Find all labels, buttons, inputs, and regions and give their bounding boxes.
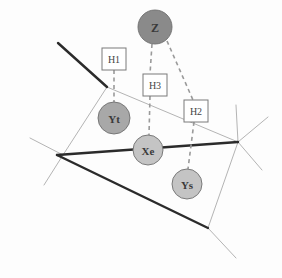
node-circle-yt xyxy=(98,102,130,134)
hypothesis-box-frame-h1 xyxy=(102,48,126,70)
node-circle-z xyxy=(138,10,172,44)
cell-right-out xyxy=(238,117,268,142)
node-xe[interactable]: Xe xyxy=(133,135,163,165)
hypothesis-box-h2[interactable]: H2 xyxy=(184,100,208,122)
node-circle-xe xyxy=(133,135,163,165)
cell-left-spur xyxy=(30,138,63,155)
voronoi-hypothesis-diagram: ZYtXeYs H1H3H2 xyxy=(0,0,282,278)
hypothesis-box-frame-h2 xyxy=(184,100,208,122)
cell-left-down xyxy=(44,155,63,185)
node-yt[interactable]: Yt xyxy=(98,102,130,134)
diagram-canvas: ZYtXeYs H1H3H2 xyxy=(0,0,282,278)
cell-right-down xyxy=(208,142,238,228)
hypothesis-box-h1[interactable]: H1 xyxy=(102,48,126,70)
node-ys[interactable]: Ys xyxy=(172,169,202,199)
node-circle-ys xyxy=(172,169,202,199)
cell-right-low xyxy=(238,142,262,170)
edge-upper-left xyxy=(58,43,107,87)
node-z[interactable]: Z xyxy=(138,10,172,44)
z-to-h2 xyxy=(167,41,193,100)
hypothesis-box-h3[interactable]: H3 xyxy=(143,74,167,96)
h3-to-xe xyxy=(149,96,150,135)
cell-right-up xyxy=(236,105,238,142)
cell-bottom-out xyxy=(208,228,236,258)
hypothesis-box-frame-h3 xyxy=(143,74,167,96)
z-to-h3 xyxy=(150,44,152,74)
